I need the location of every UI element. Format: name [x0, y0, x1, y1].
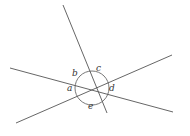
angle-label-c: c [96, 64, 101, 73]
angle-label-e: e [88, 102, 93, 111]
angle-label-b: b [72, 69, 78, 78]
geometry-figure: a b c d e [0, 0, 190, 136]
angle-label-d: d [109, 84, 115, 93]
steep-line [63, 5, 107, 113]
shallow-line-left-up [16, 55, 172, 123]
geometry-canvas [0, 0, 190, 136]
angle-label-a: a [67, 84, 72, 93]
